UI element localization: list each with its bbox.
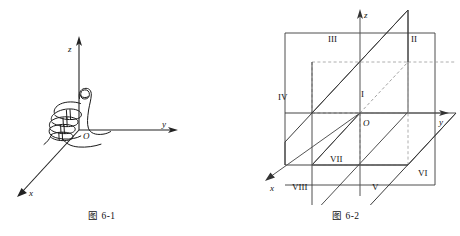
octant-label-II: II [411,34,417,44]
xOz-plane-edges [285,10,456,205]
figure-sheet: z y x O [0,0,460,236]
figure-6-2: z y x O I II III IV V VI VII [230,0,460,205]
octant-label-III: III [328,34,337,44]
z-axis: z [67,36,82,130]
x-axis-label: x [269,183,274,193]
octant-label-VII: VII [330,154,343,164]
z-axis-label: z [67,44,72,54]
octant-label-VI: VI [418,168,428,178]
z-axis: z [357,9,368,196]
x-axis-label: x [28,188,33,198]
octant-label-I: I [361,89,364,99]
z-axis-label: z [363,10,368,20]
x-axis: x [265,113,360,193]
octant-label-VIII: VIII [292,182,308,192]
y-axis: y [360,110,449,127]
origin-label: O [363,118,370,128]
figure-6-1: z y x O [0,0,230,200]
octant-label-V: V [372,182,379,192]
y-axis: y [79,119,178,133]
y-axis-label: y [438,117,443,127]
octant-label-IV: IV [278,92,288,102]
origin-label: O [83,131,90,141]
figure-6-1-caption: 图 6-1 [88,208,116,222]
right-hand-illustration [44,88,111,147]
figure-6-2-caption: 图 6-2 [332,208,360,222]
y-axis-label: y [161,119,166,129]
